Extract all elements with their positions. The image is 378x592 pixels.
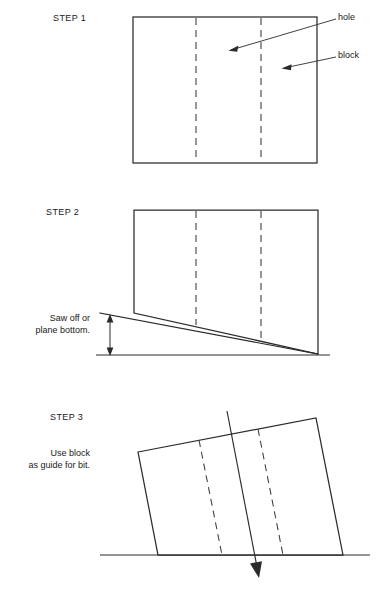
step3-note-line-1: Use block [28,448,90,460]
step3-note: Use block as guide for bit. [28,448,90,471]
hole-callout-label: hole [338,12,355,22]
step2-note-line-1: Saw off or [35,313,90,325]
step2-title: STEP 2 [46,207,79,217]
step3-title: STEP 3 [50,412,83,422]
step3-group [100,411,370,578]
step3-block-shape [138,418,343,555]
step2-block-shape [134,210,318,354]
block-callout-label: block [338,50,359,60]
diagram-canvas [0,0,378,592]
step2-note-line-2: plane bottom. [35,325,90,337]
step3-bit-arrow-icon [250,561,262,578]
technical-diagram: STEP 1 hole block STEP 2 Saw off or plan… [0,0,378,592]
step3-note-line-2: as guide for bit. [28,460,90,472]
step2-note: Saw off or plane bottom. [35,313,90,336]
step1-title: STEP 1 [53,13,86,23]
step1-block-rect [133,17,317,163]
step1-group [133,17,336,163]
step2-group [96,210,330,356]
